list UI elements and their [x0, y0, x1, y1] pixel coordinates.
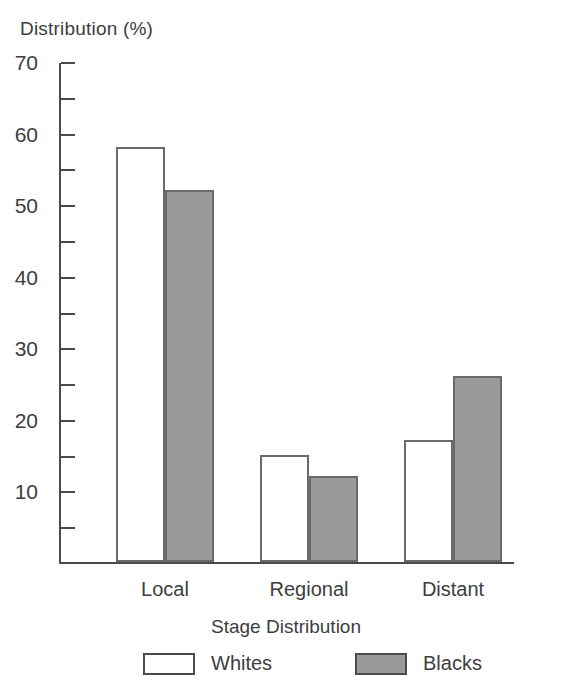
plot-area	[59, 63, 514, 564]
y-tick-minor-45	[61, 241, 75, 243]
bar-distant-whites	[404, 440, 453, 562]
white-swatch	[143, 653, 195, 675]
y-tick-minor-55	[61, 169, 75, 171]
bar-local-whites	[116, 147, 165, 562]
legend-item-whites[interactable]: Whites	[143, 652, 272, 675]
y-tick-label-50: 50	[15, 195, 38, 216]
legend-label-blacks: Blacks	[423, 652, 482, 675]
bar-regional-blacks	[309, 476, 358, 562]
y-tick-label-30: 30	[15, 338, 38, 359]
y-tick-label-20: 20	[15, 410, 38, 431]
y-tick-minor-25	[61, 384, 75, 386]
y-tick-label-70: 70	[15, 52, 38, 73]
gray-swatch	[355, 653, 407, 675]
y-axis-title: Distribution (%)	[20, 18, 153, 40]
y-tick-minor-5	[61, 527, 75, 529]
bar-local-blacks	[165, 190, 214, 562]
bar-regional-whites	[260, 455, 309, 562]
chart-legend: WhitesBlacks	[0, 652, 572, 686]
y-tick-major-50	[61, 205, 75, 207]
y-tick-label-60: 60	[15, 124, 38, 145]
y-tick-major-30	[61, 348, 75, 350]
y-tick-major-10	[61, 491, 75, 493]
y-axis-tick-labels: 70605040302010	[0, 63, 50, 564]
y-tick-major-70	[61, 62, 75, 64]
legend-item-blacks[interactable]: Blacks	[355, 652, 482, 675]
bar-chart: Distribution (%) 70605040302010 LocalReg…	[0, 0, 572, 700]
y-tick-minor-65	[61, 98, 75, 100]
bar-distant-blacks	[453, 376, 502, 562]
legend-label-whites: Whites	[211, 652, 272, 675]
y-tick-minor-35	[61, 313, 75, 315]
y-tick-major-40	[61, 277, 75, 279]
x-category-label-distant: Distant	[383, 578, 523, 601]
y-tick-major-60	[61, 134, 75, 136]
y-tick-label-40: 40	[15, 267, 38, 288]
x-axis-title: Stage Distribution	[0, 616, 572, 638]
x-category-label-local: Local	[95, 578, 235, 601]
x-axis-line	[59, 562, 514, 564]
y-tick-label-10: 10	[15, 481, 38, 502]
y-tick-major-20	[61, 420, 75, 422]
y-tick-minor-15	[61, 456, 75, 458]
x-category-label-regional: Regional	[239, 578, 379, 601]
